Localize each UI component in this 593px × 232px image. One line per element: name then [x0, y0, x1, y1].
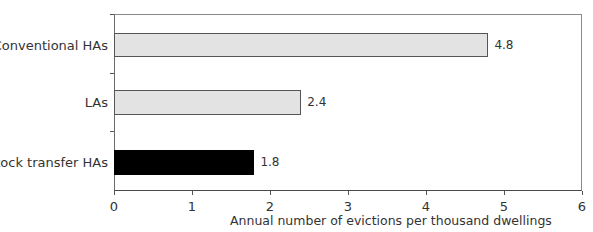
- x-tick-label: 6: [578, 199, 586, 214]
- value-label: 2.4: [307, 95, 326, 109]
- x-tick-label: 1: [188, 199, 196, 214]
- bar-conventional-has: [114, 33, 488, 57]
- x-tick: [114, 191, 115, 195]
- eviction-bar-chart: Conventional HAs LAs Stock transfer HAs …: [0, 0, 593, 232]
- x-tick-label: 2: [266, 199, 274, 214]
- x-tick: [582, 191, 583, 195]
- y-tick: [110, 73, 114, 74]
- x-axis-title: Annual number of evictions per thousand …: [230, 213, 552, 228]
- bar-las: [114, 90, 301, 115]
- category-label: LAs: [85, 95, 108, 110]
- x-tick-label: 4: [422, 199, 430, 214]
- category-label: Stock transfer HAs: [0, 155, 108, 170]
- bar-stock-transfer-has: [114, 150, 254, 175]
- x-tick-label: 5: [500, 199, 508, 214]
- x-tick: [426, 191, 427, 195]
- y-tick: [110, 131, 114, 132]
- x-tick-label: 0: [110, 199, 118, 214]
- x-tick-label: 3: [344, 199, 352, 214]
- x-tick: [192, 191, 193, 195]
- x-tick: [270, 191, 271, 195]
- value-label: 4.8: [494, 38, 513, 52]
- value-label: 1.8: [260, 155, 279, 169]
- x-tick: [504, 191, 505, 195]
- x-tick: [348, 191, 349, 195]
- y-tick: [110, 14, 114, 15]
- category-label: Conventional HAs: [0, 38, 108, 53]
